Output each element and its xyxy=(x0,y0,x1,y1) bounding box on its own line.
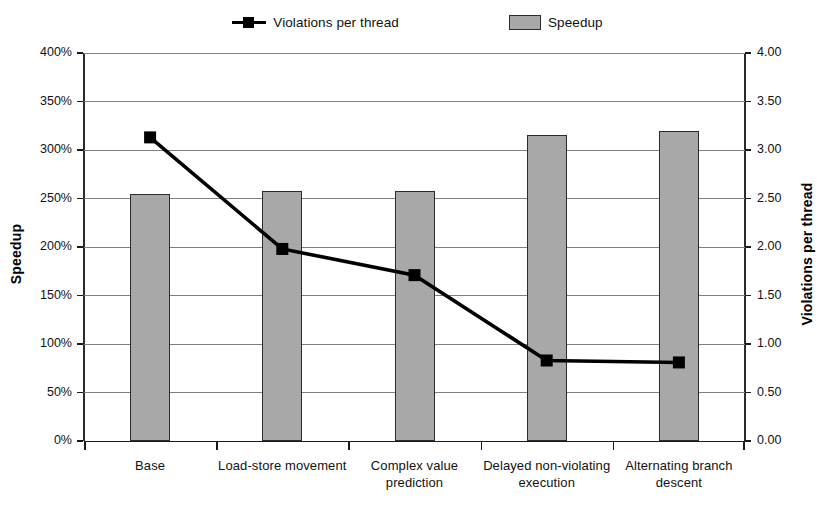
line-marker xyxy=(673,356,685,368)
y-axis-right-tick xyxy=(745,440,751,442)
line-marker xyxy=(144,131,156,143)
y-axis-left-title: Speedup xyxy=(8,174,24,334)
line-marker xyxy=(541,354,553,366)
filled-rect-icon xyxy=(509,15,541,30)
line-series-violations-per-thread xyxy=(84,53,745,441)
legend-label-violations-per-thread: Violations per thread xyxy=(273,15,399,30)
y-axis-left-tick xyxy=(77,149,83,151)
y-axis-left-tick-label: 100% xyxy=(40,337,72,350)
y-axis-left-tick xyxy=(77,392,83,394)
y-axis-right-tick-label: 1.00 xyxy=(757,337,781,350)
y-axis-right-tick xyxy=(745,246,751,248)
y-axis-right-tick-label: 0.50 xyxy=(757,386,781,399)
x-axis-tick xyxy=(481,441,483,450)
line-marker xyxy=(409,269,421,281)
y-axis-left-tick-label: 150% xyxy=(40,289,72,302)
x-axis-tick xyxy=(743,441,745,450)
chart-legend: Violations per thread Speedup xyxy=(0,10,835,34)
y-axis-left-tick-label: 300% xyxy=(40,143,72,156)
y-axis-left-tick xyxy=(77,101,83,103)
y-axis-right-tick xyxy=(745,149,751,151)
y-axis-right-tick xyxy=(745,392,751,394)
y-axis-left-tick-label: 350% xyxy=(40,95,72,108)
x-axis-category-label: Load-store movement xyxy=(216,457,348,474)
y-axis-right-tick-label: 0.00 xyxy=(757,434,781,447)
y-axis-right-tick xyxy=(745,295,751,297)
y-axis-right-tick xyxy=(745,343,751,345)
y-axis-right-tick-label: 2.00 xyxy=(757,240,781,253)
chart-figure: Violations per thread Speedup Speedup Vi… xyxy=(0,0,835,511)
x-axis-tick xyxy=(348,441,350,450)
y-axis-left-tick xyxy=(77,246,83,248)
y-axis-left-tick-label: 50% xyxy=(47,386,72,399)
line-marker xyxy=(276,243,288,255)
y-axis-right-tick-label: 3.50 xyxy=(757,95,781,108)
y-axis-right-tick-label: 3.00 xyxy=(757,143,781,156)
line-square-marker-icon xyxy=(232,15,266,29)
legend-label-speedup: Speedup xyxy=(548,15,603,30)
y-axis-right-tick xyxy=(745,52,751,54)
x-axis-tick xyxy=(84,441,86,450)
y-axis-left-tick xyxy=(77,440,83,442)
y-axis-left-tick xyxy=(77,198,83,200)
x-axis-tick xyxy=(216,441,218,450)
x-axis-category-label: Delayed non-violating execution xyxy=(481,457,613,491)
x-axis-tick xyxy=(613,441,615,450)
y-axis-left-tick-label: 200% xyxy=(40,240,72,253)
line-path xyxy=(150,137,679,362)
legend-item-violations-per-thread: Violations per thread xyxy=(232,15,399,30)
x-axis-category-label: Complex value prediction xyxy=(348,457,480,491)
y-axis-right-tick xyxy=(745,101,751,103)
y-axis-left-tick xyxy=(77,52,83,54)
y-axis-right-title: Violations per thread xyxy=(799,154,815,354)
x-axis-category-label: Base xyxy=(84,457,216,474)
y-axis-right-tick xyxy=(745,198,751,200)
y-axis-right-tick-label: 4.00 xyxy=(757,46,781,59)
x-axis-category-label: Alternating branch descent xyxy=(613,457,745,491)
y-axis-right-tick-label: 1.50 xyxy=(757,289,781,302)
y-axis-left-tick xyxy=(77,343,83,345)
y-axis-left-tick-label: 0% xyxy=(54,434,72,447)
y-axis-left-tick-label: 250% xyxy=(40,192,72,205)
legend-item-speedup: Speedup xyxy=(509,15,603,30)
y-axis-left-tick xyxy=(77,295,83,297)
y-axis-left-tick-label: 400% xyxy=(40,46,72,59)
y-axis-right-tick-label: 2.50 xyxy=(757,192,781,205)
plot-area: 0%50%100%150%200%250%300%350%400% 0.000.… xyxy=(84,53,745,441)
